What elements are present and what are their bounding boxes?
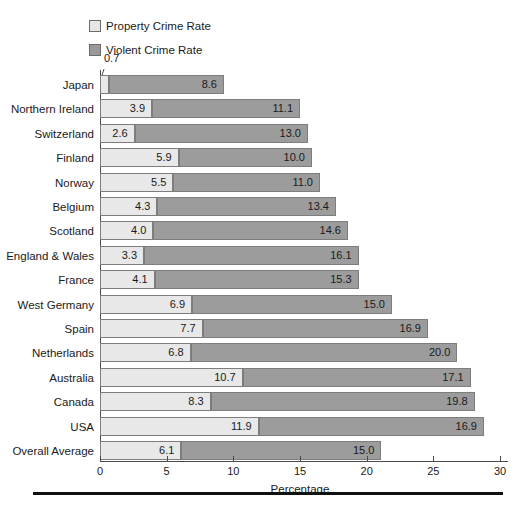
bar-value-label-violent: 13.0 [280, 128, 307, 139]
bar-value-label-property: 3.9 [130, 103, 151, 114]
bar-value-label-property: 4.1 [132, 274, 153, 285]
bar-segment-violent: 19.8 [211, 392, 475, 411]
bar-row: 4.115.3 [0, 270, 521, 289]
callout-value-label: 0.7 [104, 53, 119, 64]
x-axis-tick [367, 456, 368, 461]
bar-segment-violent: 15.3 [155, 270, 359, 289]
bar-segment-property: 0.7 [100, 75, 109, 94]
bar-segment-violent: 16.1 [144, 246, 359, 265]
bar-row: 3.911.1 [0, 99, 521, 118]
bar-segment-violent: 16.9 [203, 319, 428, 338]
bar-value-label-violent: 19.8 [446, 396, 473, 407]
bar-value-label-violent: 16.1 [330, 250, 357, 261]
bar-segment-violent: 15.0 [181, 441, 381, 460]
bar-segment-violent: 17.1 [243, 368, 471, 387]
bar-segment-property: 4.1 [100, 270, 155, 289]
bar-segment-violent: 8.6 [109, 75, 224, 94]
bar-segment-property: 4.0 [100, 221, 153, 240]
bottom-divider-rule [33, 492, 503, 495]
bar-segment-violent: 11.1 [152, 99, 300, 118]
x-axis-tick [100, 456, 101, 461]
bar-value-label-property: 4.3 [135, 201, 156, 212]
x-axis-tick-label: 30 [494, 466, 506, 477]
bar-value-label-violent: 15.3 [330, 274, 357, 285]
bar-value-label-property: 11.9 [231, 421, 258, 432]
x-axis-tick-label: 5 [164, 466, 170, 477]
bar-row: 7.716.9 [0, 319, 521, 338]
bar-value-label-violent: 15.0 [364, 299, 391, 310]
bar-row: 5.511.0 [0, 173, 521, 192]
bar-segment-violent: 14.6 [153, 221, 348, 240]
bar-row: 6.115.0 [0, 441, 521, 460]
bar-value-label-violent: 16.9 [456, 421, 483, 432]
bar-row: 0.78.6 [0, 75, 521, 94]
bar-value-label-property: 7.7 [180, 323, 201, 334]
bar-value-label-property: 10.7 [214, 372, 241, 383]
bar-value-label-violent: 16.9 [400, 323, 427, 334]
bar-value-label-property: 6.9 [170, 299, 191, 310]
bar-value-label-violent: 17.1 [442, 372, 469, 383]
bar-value-label-violent: 8.6 [202, 79, 223, 90]
bar-segment-property: 5.9 [100, 148, 179, 167]
bar-value-label-property: 2.6 [112, 128, 133, 139]
chart-plot-area: 0.7 Percentage Japan0.78.6Northern Irela… [0, 0, 521, 509]
x-axis-tick [500, 456, 501, 461]
bar-value-label-violent: 13.4 [308, 201, 335, 212]
bar-value-label-violent: 14.6 [320, 225, 347, 236]
bar-value-label-violent: 11.1 [272, 103, 299, 114]
bar-value-label-violent: 15.0 [353, 445, 380, 456]
bar-segment-violent: 16.9 [259, 417, 484, 436]
bar-value-label-violent: 10.0 [284, 152, 311, 163]
bar-segment-violent: 13.4 [157, 197, 336, 216]
bar-value-label-property: 6.8 [168, 347, 189, 358]
bar-segment-property: 3.3 [100, 246, 144, 265]
bar-segment-property: 6.9 [100, 295, 192, 314]
bar-value-label-property: 5.5 [151, 177, 172, 188]
bar-segment-violent: 10.0 [179, 148, 312, 167]
bar-value-label-property: 4.0 [131, 225, 152, 236]
bar-segment-violent: 11.0 [173, 173, 320, 192]
x-axis-tick [433, 456, 434, 461]
bar-row: 3.316.1 [0, 246, 521, 265]
bar-value-label-property: 8.3 [188, 396, 209, 407]
bar-segment-property: 3.9 [100, 99, 152, 118]
bar-segment-property: 10.7 [100, 368, 243, 387]
x-axis-tick-label: 10 [227, 466, 239, 477]
bar-value-label-property: 3.3 [122, 250, 143, 261]
bar-row: 8.319.8 [0, 392, 521, 411]
x-axis-tick-label: 0 [97, 466, 103, 477]
x-axis-line [100, 461, 508, 462]
bar-row: 2.613.0 [0, 124, 521, 143]
bar-segment-property: 4.3 [100, 197, 157, 216]
bar-value-label-violent: 20.0 [429, 347, 456, 358]
bar-row: 4.313.4 [0, 197, 521, 216]
bar-value-label-property: 6.1 [159, 445, 180, 456]
bar-segment-property: 6.1 [100, 441, 181, 460]
bar-row: 4.014.6 [0, 221, 521, 240]
bar-segment-violent: 15.0 [192, 295, 392, 314]
bar-value-label-violent: 11.0 [292, 177, 319, 188]
bar-row: 5.910.0 [0, 148, 521, 167]
bar-segment-property: 7.7 [100, 319, 203, 338]
bar-segment-property: 8.3 [100, 392, 211, 411]
bar-segment-violent: 20.0 [191, 343, 458, 362]
bar-row: 10.717.1 [0, 368, 521, 387]
x-axis-tick-label: 20 [361, 466, 373, 477]
x-axis-tick [300, 456, 301, 461]
bar-segment-property: 11.9 [100, 417, 259, 436]
bar-row: 11.916.9 [0, 417, 521, 436]
bar-value-label-property: 5.9 [156, 152, 177, 163]
bar-segment-violent: 13.0 [135, 124, 308, 143]
x-axis-tick-label: 25 [427, 466, 439, 477]
bar-segment-property: 5.5 [100, 173, 173, 192]
bar-segment-property: 2.6 [100, 124, 135, 143]
x-axis-tick [167, 456, 168, 461]
bar-segment-property: 6.8 [100, 343, 191, 362]
bar-row: 6.915.0 [0, 295, 521, 314]
bar-row: 6.820.0 [0, 343, 521, 362]
x-axis-tick [233, 456, 234, 461]
x-axis-tick-label: 15 [294, 466, 306, 477]
